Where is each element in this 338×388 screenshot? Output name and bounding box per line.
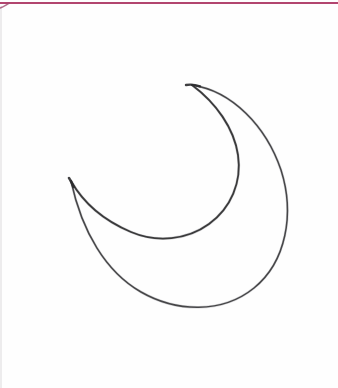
top-margin-rule-group xyxy=(0,3,338,8)
top-margin-rule-curl xyxy=(0,3,9,8)
inner-crescent-arc xyxy=(71,85,239,239)
outer-crescent-arc xyxy=(71,85,287,307)
sketch-page: Crescent Moon Sketch xyxy=(0,0,338,388)
inner-crescent-arc-underlay xyxy=(71,85,239,239)
crescent-moon-drawing xyxy=(0,0,338,388)
outer-crescent-arc-underlay xyxy=(71,85,287,307)
crescent-ink-group xyxy=(69,85,287,308)
